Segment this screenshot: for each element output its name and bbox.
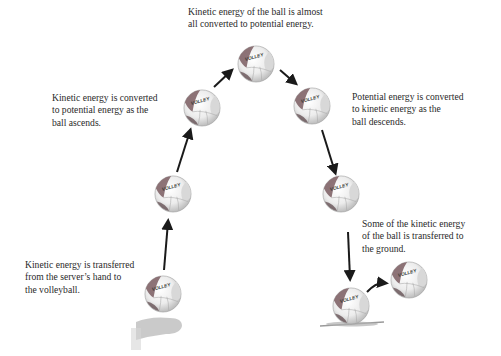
caption-line: Some of the kinetic energy (362, 218, 465, 230)
caption-line: ball ascends. (52, 117, 158, 129)
volleyball-apex (238, 46, 274, 82)
volleyball-serve (145, 276, 181, 312)
caption-line: Potential energy is converted (352, 91, 463, 103)
caption-line: all converted to potential energy. (188, 18, 323, 30)
caption-line: Kinetic energy is transferred (25, 259, 134, 271)
volleyball-falling-low (323, 176, 359, 212)
arrow-rise-2 (214, 71, 231, 87)
arrow-fall-2 (322, 130, 335, 172)
volleyball-rising-high (184, 90, 220, 126)
arrow-fall-1 (280, 70, 295, 83)
caption-serve: Kinetic energy is transferred from the s… (25, 259, 134, 296)
caption-descending: Potential energy is converted to kinetic… (352, 91, 463, 128)
caption-line: from the server’s hand to (25, 271, 134, 283)
caption-line: ball descends. (352, 116, 463, 128)
trajectory-scene: VOLLEY (0, 0, 501, 356)
caption-ground: Some of the kinetic energy of the ball i… (362, 218, 465, 255)
caption-apex: Kinetic energy of the ball is almost all… (188, 6, 323, 31)
volleyball-rebound (391, 262, 427, 298)
caption-line: of the ball is transferred to (362, 230, 465, 242)
arrow-serve-up (164, 222, 168, 270)
caption-line: the volleyball. (25, 284, 134, 296)
arrow-rise-1 (177, 131, 190, 172)
server-hand (136, 318, 182, 351)
arrow-rebound (367, 283, 385, 292)
caption-line: the ground. (362, 243, 465, 255)
volleyball-falling-high (294, 88, 330, 124)
volleyball-impact (333, 288, 369, 324)
volleyball-rising-low (155, 176, 191, 212)
caption-line: Kinetic energy is converted (52, 92, 158, 104)
caption-line: to kinetic energy as the (352, 103, 463, 115)
caption-line: Kinetic energy of the ball is almost (188, 6, 323, 18)
caption-line: to potential energy as the (52, 104, 158, 116)
arrow-fall-3 (348, 232, 350, 278)
caption-ascending: Kinetic energy is converted to potential… (52, 92, 158, 129)
